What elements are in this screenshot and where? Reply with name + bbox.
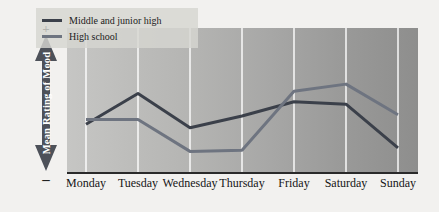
x-axis-label: Tuesday	[118, 176, 158, 191]
legend-label: Middle and junior high	[69, 15, 162, 26]
legend: Middle and junior high High school	[36, 8, 198, 48]
x-axis-labels: MondayTuesdayWednesdayThursdayFridaySatu…	[0, 176, 439, 198]
x-axis-label: Wednesday	[162, 176, 217, 191]
x-axis-label: Monday	[66, 176, 106, 191]
legend-swatch-icon	[42, 35, 62, 38]
y-axis-arrow: Mean Rating of Mood	[34, 35, 58, 171]
legend-swatch-icon	[42, 19, 62, 22]
double-arrow-icon	[34, 35, 58, 171]
legend-label: High school	[69, 31, 118, 42]
x-axis-label: Thursday	[219, 176, 264, 191]
legend-item-middle-and-junior-high: Middle and junior high	[42, 12, 162, 28]
x-axis-label: Saturday	[325, 176, 368, 191]
plot-area	[67, 28, 418, 174]
x-axis-label: Sunday	[380, 176, 416, 191]
chart-figure: + Mean Rating of Mood – Middle and junio…	[0, 0, 439, 212]
x-axis-label: Friday	[278, 176, 309, 191]
chart-svg	[67, 28, 418, 172]
legend-item-high-school: High school	[42, 28, 118, 44]
